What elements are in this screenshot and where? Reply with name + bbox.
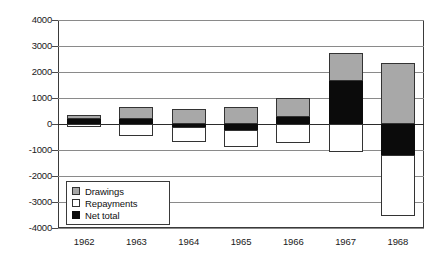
bar-segment-net-total-1968 <box>381 124 415 155</box>
x-tick-label-1965: 1965 <box>219 236 263 248</box>
bar-group-1965[interactable] <box>224 20 258 228</box>
bar-segment-net-total-1965 <box>224 124 258 130</box>
y-axis: 40003000200010000-1000-2000-3000-4000 <box>0 0 52 267</box>
y-tick-label--2000: -2000 <box>6 171 52 181</box>
y-tick-label-3000: 3000 <box>6 41 52 51</box>
bar-segment-net-total-1964 <box>172 124 206 127</box>
bar-segment-drawings-1968 <box>381 63 415 124</box>
bar-segment-repayments-1964 <box>172 127 206 142</box>
bar-segment-repayments-1968 <box>381 155 415 216</box>
y-tick-label--3000: -3000 <box>6 197 52 207</box>
bar-segment-repayments-1962 <box>67 124 101 127</box>
legend-label-drawings: Drawings <box>85 186 124 197</box>
bar-segment-drawings-1967 <box>329 53 363 82</box>
bar-segment-repayments-1966 <box>276 124 310 143</box>
legend-label-net-total: Net total <box>85 210 119 221</box>
legend-swatch-repayments-icon <box>72 199 80 207</box>
y-tick-label-4000: 4000 <box>6 15 52 25</box>
bar-segment-repayments-1963 <box>119 124 153 136</box>
bar-segment-drawings-1966 <box>276 98 310 117</box>
legend-item-repayments: Repayments <box>72 197 165 209</box>
x-tick-label-1963: 1963 <box>114 236 158 248</box>
bar-segment-drawings-1964 <box>172 109 206 124</box>
x-axis: 1962196319641965196619671968 <box>58 236 424 252</box>
bar-segment-net-total-1967 <box>329 81 363 124</box>
bar-segment-drawings-1965 <box>224 107 258 124</box>
y-tick-label--4000: -4000 <box>6 223 52 233</box>
bar-group-1966[interactable] <box>276 20 310 228</box>
bar-segment-net-total-1962 <box>67 119 101 124</box>
bar-segment-drawings-1963 <box>119 107 153 119</box>
x-tick-label-1968: 1968 <box>376 236 420 248</box>
bar-group-1967[interactable] <box>329 20 363 228</box>
y-tick-label--1000: -1000 <box>6 145 52 155</box>
chart-legend: Drawings Repayments Net total <box>66 181 170 225</box>
legend-item-drawings: Drawings <box>72 185 165 197</box>
x-tick-label-1962: 1962 <box>62 236 106 248</box>
bar-group-1964[interactable] <box>172 20 206 228</box>
legend-label-repayments: Repayments <box>85 198 137 209</box>
legend-item-net-total: Net total <box>72 209 165 221</box>
y-tick-label-0: 0 <box>6 119 52 129</box>
bar-segment-net-total-1963 <box>119 119 153 124</box>
bar-group-1968[interactable] <box>381 20 415 228</box>
bar-chart: 40003000200010000-1000-2000-3000-4000 19… <box>0 0 445 267</box>
bar-segment-net-total-1966 <box>276 117 310 124</box>
bar-segment-repayments-1965 <box>224 130 258 147</box>
gridline--4000 <box>58 228 424 229</box>
bar-segment-repayments-1967 <box>329 124 363 152</box>
legend-swatch-net-total-icon <box>72 211 80 219</box>
legend-swatch-drawings-icon <box>72 187 80 195</box>
y-tick-label-1000: 1000 <box>6 93 52 103</box>
x-tick-label-1964: 1964 <box>167 236 211 248</box>
y-tick-label-2000: 2000 <box>6 67 52 77</box>
x-tick-label-1966: 1966 <box>271 236 315 248</box>
x-tick-label-1967: 1967 <box>324 236 368 248</box>
